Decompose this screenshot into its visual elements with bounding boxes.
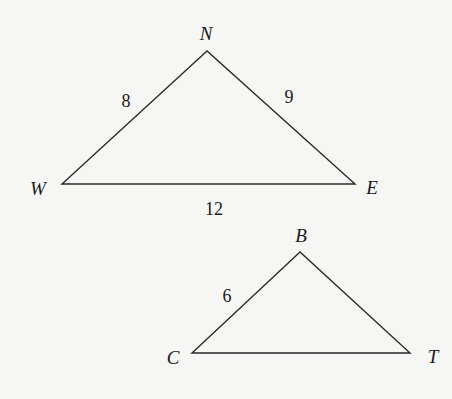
- vertex-label-b: B: [295, 225, 307, 246]
- triangles-figure: N W E 8 9 12 B C T 6: [0, 0, 452, 399]
- triangle-bct: B C T 6: [167, 225, 440, 368]
- vertex-label-n: N: [199, 23, 214, 44]
- triangle-nwe-outline: [62, 51, 355, 184]
- vertex-label-t: T: [428, 346, 440, 367]
- diagram-canvas: N W E 8 9 12 B C T 6: [0, 0, 452, 399]
- vertex-label-w: W: [30, 178, 48, 199]
- side-length-cb: 6: [223, 286, 232, 306]
- vertex-label-c: C: [167, 347, 180, 368]
- side-length-wn: 8: [122, 91, 131, 111]
- vertex-label-e: E: [365, 177, 378, 198]
- side-length-we: 12: [205, 199, 223, 219]
- triangle-nwe: N W E 8 9 12: [30, 23, 378, 219]
- side-length-ne: 9: [285, 87, 294, 107]
